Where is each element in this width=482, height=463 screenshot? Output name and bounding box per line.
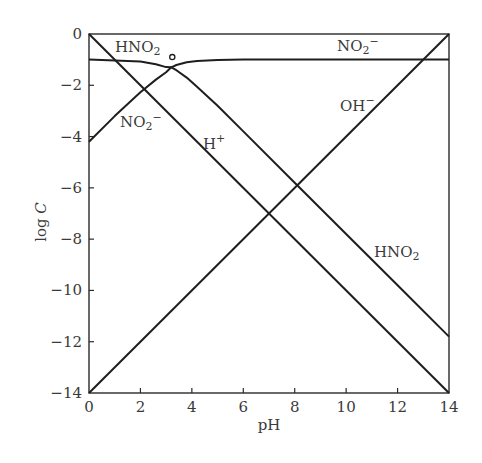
label-hno2-top: HNO2: [115, 38, 161, 58]
x-tick-label: 2: [136, 398, 146, 416]
x-tick-label: 14: [439, 398, 458, 416]
species-curves: [89, 34, 449, 393]
label-superscript: +: [216, 132, 225, 145]
x-tick-label: 10: [337, 398, 356, 416]
label-superscript: −: [152, 111, 161, 124]
label-superscript: −: [369, 35, 378, 48]
label-subscript: 2: [154, 45, 161, 58]
y-axis-label: log C: [32, 202, 50, 242]
label-hno2-right: HNO2: [374, 243, 420, 263]
x-tick-label: 6: [239, 398, 249, 416]
x-tick-label: 0: [84, 398, 94, 416]
y-tick-label: −2: [60, 76, 82, 94]
y-tick-label: −8: [60, 230, 82, 248]
label-text: H: [203, 135, 216, 153]
x-tick-label: 8: [290, 398, 300, 416]
curve-hno2: [89, 60, 449, 337]
label-subscript: 2: [413, 250, 420, 263]
y-tick-label: −10: [50, 281, 82, 299]
x-tick-label: 4: [187, 398, 197, 416]
y-tick-label: −4: [60, 128, 82, 146]
y-tick-label: −12: [50, 333, 82, 351]
x-axis-label: pH: [258, 416, 281, 434]
label-text: NO: [120, 113, 145, 131]
y-tick-label: −6: [60, 179, 82, 197]
label-text: OH: [340, 97, 365, 115]
axis-ticks: 024681012140−2−4−6−8−10−12−14: [50, 25, 458, 416]
y-axis-label-var: C: [32, 202, 50, 214]
label-subscript: 2: [362, 44, 369, 57]
y-tick-label: −14: [50, 384, 82, 402]
log-concentration-ph-chart: 024681012140−2−4−6−8−10−12−14 pH log C H…: [0, 0, 482, 463]
label-no2-top: NO2−: [337, 35, 379, 57]
label-subscript: 2: [145, 120, 152, 133]
label-no2-left: NO2−: [120, 111, 162, 133]
label-text: HNO: [374, 243, 413, 261]
x-tick-label: 12: [388, 398, 407, 416]
y-tick-label: 0: [72, 25, 82, 43]
label-text: HNO: [115, 38, 154, 56]
y-axis-label-prefix: log: [32, 214, 50, 242]
label-text: NO: [337, 37, 362, 55]
label-oh-minus: OH−: [340, 94, 375, 115]
label-superscript: −: [365, 94, 374, 107]
label-h-plus: H+: [203, 132, 225, 153]
pka-marker: [170, 54, 175, 59]
